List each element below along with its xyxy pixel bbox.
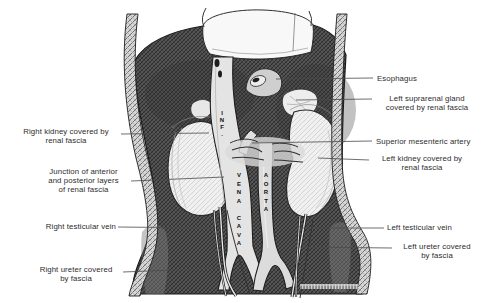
label-junction-renal-fascia: Junction of anterior and posterior layer… [36,167,131,195]
artist-signature [300,284,358,289]
label-inferior-vena-cava: VENA CAVA [236,172,242,249]
label-aorta: AORTA [263,172,269,215]
label-right-testicular-vein: Right testicular vein [16,222,116,231]
label-left-suprarenal-gland: Left suprarenal gland covered by renal f… [375,94,479,112]
label-right-kidney: Right kidney covered by renal fascia [10,127,122,145]
label-superior-mesenteric-artery: Superior mesenteric artery [376,137,491,146]
label-inferior-vena-cava-inf: INF. [219,110,225,138]
label-right-ureter: Right ureter covered by fascia [30,265,122,283]
label-left-ureter: Left ureter covered by fascia [394,242,480,260]
renal-vessel-tangle [225,137,305,167]
label-esophagus: Esophagus [377,74,447,83]
diaphragm-dome [202,8,313,59]
label-left-kidney: Left kidney covered by renal fascia [373,154,471,172]
figure-canvas: Right kidney covered by renal fascia Jun… [0,0,497,303]
label-left-testicular-vein: Left testicular vein [387,223,477,232]
